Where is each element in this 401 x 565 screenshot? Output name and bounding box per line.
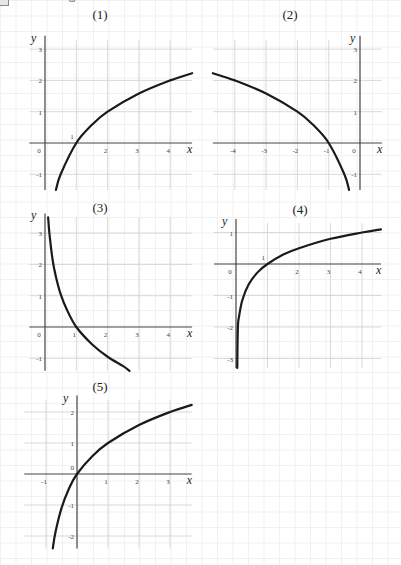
- x-tick-label: -1: [41, 478, 47, 486]
- y-tick-label: 2: [71, 409, 75, 417]
- y-tick-label: 0: [71, 464, 75, 472]
- y-tick-label: -1: [68, 502, 74, 510]
- x-axis-label: x: [186, 473, 193, 487]
- x-tick-label: 3: [166, 478, 170, 486]
- x-tick-label: 1: [104, 478, 108, 486]
- graph-title: (5): [92, 379, 107, 394]
- y-tick-label: 1: [71, 440, 75, 448]
- function-curve: [53, 405, 192, 549]
- x-tick-label: 2: [135, 478, 139, 486]
- y-axis-label: y: [62, 391, 69, 405]
- graph-5: (5)xy-1123210-1-2: [0, 0, 401, 565]
- y-tick-label: -2: [68, 533, 74, 541]
